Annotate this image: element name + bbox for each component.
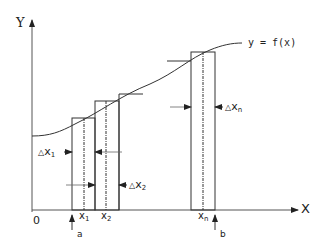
origin-label: 0 (33, 215, 40, 226)
interval-start-label: a (77, 230, 83, 239)
rectangle-2 (95, 101, 119, 210)
delta-xn-label: △xn (225, 101, 242, 114)
curve-label: y = f(x) (248, 38, 296, 48)
delta-x2-label: △x2 (129, 179, 146, 192)
y-axis-label: Y (16, 16, 25, 29)
point-xn-label: xn (198, 211, 208, 223)
point-x1-label: x1 (79, 211, 89, 223)
riemann-sum-diagram: Y X 0 y = f(x) a b x1 x2 xn △x1 △x2 △xn (0, 0, 324, 246)
point-x2-label: x2 (101, 211, 111, 223)
interval-end-label: b (220, 230, 226, 239)
delta-x1-label: △x1 (38, 146, 55, 159)
x-axis-label: X (301, 202, 310, 215)
function-curve (32, 43, 242, 136)
